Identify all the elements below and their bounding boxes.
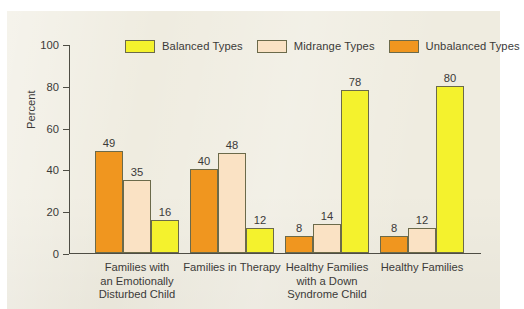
bar [151,220,179,253]
bar-value-label: 40 [198,155,210,167]
category-label-line: with a Down [267,275,387,289]
bar-value-label: 48 [226,139,238,151]
bar-item: 12 [408,228,436,253]
category-label-line: an Emotionally [77,275,197,289]
y-axis-tick-mark [63,212,69,213]
bar-group: 404812 [190,153,274,253]
bar-item: 12 [246,228,274,253]
y-axis-tick-label: 0 [53,248,59,260]
bar-item: 16 [151,220,179,253]
y-axis-tick-label: 40 [47,164,59,176]
bar-item: 78 [341,90,369,253]
y-axis-tick-mark [63,87,69,88]
y-axis-tick-mark [63,129,69,130]
bar-group: 81280 [380,86,464,253]
bar [123,180,151,253]
y-axis-tick-mark [63,45,69,46]
bar-item: 35 [123,180,151,253]
bar-item: 40 [190,169,218,253]
bar-value-label: 16 [159,206,171,218]
bar-value-label: 80 [444,72,456,84]
bar [95,151,123,253]
bar [408,228,436,253]
bar-group: 493516 [95,151,179,253]
bar [380,236,408,253]
bar [218,153,246,253]
y-axis-tick-label: 80 [47,81,59,93]
bar-item: 8 [285,236,313,253]
bar [436,86,464,253]
category-label-line: Healthy Families [362,261,482,275]
chart-panel: Balanced TypesMidrange TypesUnbalanced T… [7,11,500,309]
y-axis-label: Percent [25,90,37,129]
bar-item: 80 [436,86,464,253]
bar-item: 8 [380,236,408,253]
x-axis-line [69,253,481,254]
bar [190,169,218,253]
category-label: Healthy Families [362,261,482,275]
y-axis-line [69,45,70,254]
bar [285,236,313,253]
bar-value-label: 14 [321,210,333,222]
bar-group: 81478 [285,90,369,253]
bar [341,90,369,253]
y-axis-tick-label: 20 [47,206,59,218]
bar-item: 49 [95,151,123,253]
bar-value-label: 8 [391,222,397,234]
bar-value-label: 35 [131,166,143,178]
category-label-line: Syndrome Child [267,288,387,302]
bar-item: 48 [218,153,246,253]
y-axis-tick-mark [63,170,69,171]
bar-value-label: 12 [254,214,266,226]
bar-value-label: 12 [416,214,428,226]
bar [246,228,274,253]
y-axis-tick-label: 60 [47,123,59,135]
y-axis-tick-label: 100 [40,39,59,51]
bar-value-label: 78 [349,76,361,88]
bar-value-label: 8 [296,222,302,234]
y-axis-tick-mark [63,254,69,255]
plot-area: 020406080100 4935164048128147881280 [69,45,481,254]
bar-item: 14 [313,224,341,253]
category-label-line: Disturbed Child [77,288,197,302]
bar-value-label: 49 [103,137,115,149]
bar [313,224,341,253]
